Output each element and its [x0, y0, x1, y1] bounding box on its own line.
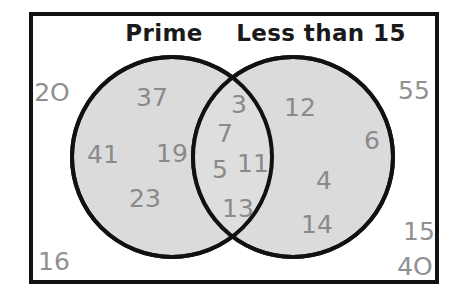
venn-diagram-canvas: Prime Less than 15 374119233751113126414… [0, 0, 466, 295]
venn-number-right-only: 14 [301, 212, 333, 237]
venn-number-right-only: 4 [316, 168, 332, 193]
venn-number-left-only: 23 [129, 186, 161, 211]
venn-number-right-only: 6 [364, 128, 380, 153]
venn-number-intersection: 7 [217, 121, 233, 146]
venn-number-outside: 2O [34, 80, 70, 105]
venn-number-left-only: 19 [156, 141, 188, 166]
venn-number-left-only: 37 [136, 85, 168, 110]
venn-number-intersection: 5 [212, 157, 228, 182]
venn-number-outside: 15 [403, 219, 435, 244]
venn-number-outside: 4O [397, 254, 433, 279]
venn-number-intersection: 11 [237, 151, 269, 176]
right-set-title: Less than 15 [226, 20, 416, 46]
left-set-title: Prime [104, 20, 224, 46]
venn-number-intersection: 3 [231, 92, 247, 117]
venn-number-right-only: 12 [284, 95, 316, 120]
venn-number-left-only: 41 [87, 142, 119, 167]
venn-number-outside: 16 [38, 249, 70, 274]
venn-number-intersection: 13 [222, 196, 254, 221]
venn-number-outside: 55 [398, 78, 430, 103]
